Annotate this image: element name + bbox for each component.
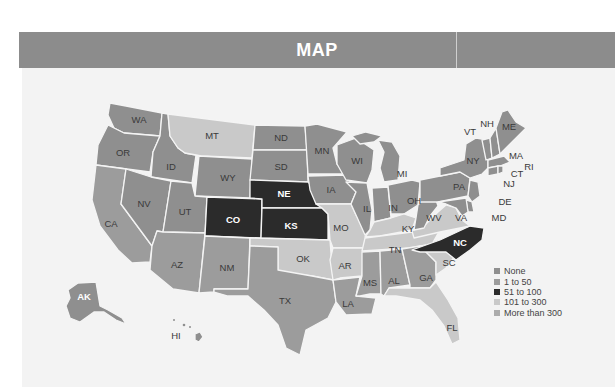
state-hi[interactable]: [195, 332, 203, 342]
state-nj[interactable]: [468, 180, 480, 202]
label-sc: SC: [442, 257, 455, 268]
legend-item-1-to-50: 1 to 50: [494, 276, 562, 286]
legend-item-none: None: [494, 266, 562, 276]
label-wa: WA: [132, 114, 148, 125]
label-or: OR: [116, 147, 130, 158]
label-al: AL: [388, 275, 400, 286]
label-la: LA: [342, 298, 354, 309]
label-nc: NC: [453, 237, 467, 248]
legend-label: 51 to 100: [504, 287, 542, 297]
label-sd: SD: [274, 161, 287, 172]
state-ct[interactable]: [488, 166, 498, 176]
label-ny: NY: [466, 155, 480, 166]
state-ri[interactable]: [498, 166, 503, 174]
label-mt: MT: [205, 130, 219, 141]
legend-item-101-to-300: 101 to 300: [494, 297, 562, 307]
label-wv: WV: [426, 212, 442, 223]
label-va: VA: [455, 212, 468, 223]
label-mo: MO: [333, 222, 348, 233]
label-vt: VT: [464, 126, 476, 137]
label-co: CO: [226, 214, 240, 225]
state-hi-island: [183, 324, 186, 327]
label-ak: AK: [77, 291, 91, 302]
label-ok: OK: [296, 253, 310, 264]
legend-label: 1 to 50: [504, 277, 532, 287]
label-hi: HI: [171, 330, 181, 341]
label-in: IN: [388, 202, 398, 213]
label-tn: TN: [389, 244, 402, 255]
label-wy: WY: [220, 172, 236, 183]
label-ks: KS: [284, 220, 297, 231]
label-ca: CA: [104, 218, 118, 229]
legend-swatch-icon: [494, 279, 500, 285]
label-ut: UT: [179, 206, 192, 217]
label-ma: MA: [509, 150, 524, 161]
label-de: DE: [498, 196, 511, 207]
label-az: AZ: [171, 259, 183, 270]
legend-swatch-icon: [494, 289, 500, 295]
label-nv: NV: [137, 198, 151, 209]
label-mn: MN: [315, 145, 330, 156]
label-md: MD: [492, 212, 507, 223]
state-hi-island: [173, 319, 175, 321]
state-hi-island: [189, 326, 191, 328]
legend-label: 101 to 300: [504, 297, 547, 307]
label-pa: PA: [453, 181, 466, 192]
label-nd: ND: [274, 132, 288, 143]
label-ga: GA: [419, 272, 433, 283]
us-choropleth-map: WA OR CA ID NV MT WY UT AZ CO NM ND SD N…: [0, 0, 615, 387]
label-id: ID: [166, 161, 176, 172]
label-ne: NE: [277, 188, 290, 199]
label-oh: OH: [407, 195, 421, 206]
label-wi: WI: [351, 155, 363, 166]
legend-swatch-icon: [494, 268, 500, 274]
label-nh: NH: [480, 118, 494, 129]
label-ri: RI: [524, 161, 534, 172]
label-ia: IA: [327, 184, 337, 195]
map-legend: None 1 to 50 51 to 100 101 to 300 More t…: [494, 266, 562, 318]
label-nj: NJ: [503, 178, 515, 189]
state-fl[interactable]: [384, 282, 460, 344]
label-ms: MS: [363, 277, 377, 288]
label-ar: AR: [338, 260, 351, 271]
legend-swatch-icon: [494, 310, 500, 316]
label-fl: FL: [446, 322, 457, 333]
label-tx: TX: [279, 295, 292, 306]
label-mi: MI: [397, 168, 408, 179]
legend-item-51-to-100: 51 to 100: [494, 287, 562, 297]
legend-label: None: [504, 266, 526, 276]
legend-item-more-than-300: More than 300: [494, 308, 562, 318]
state-ak[interactable]: [66, 282, 126, 324]
legend-swatch-icon: [494, 299, 500, 305]
label-ky: KY: [402, 223, 415, 234]
state-me[interactable]: [496, 110, 526, 154]
legend-label: More than 300: [504, 308, 562, 318]
label-me: ME: [502, 121, 516, 132]
label-nm: NM: [220, 262, 235, 273]
label-il: IL: [363, 203, 371, 214]
state-ny[interactable]: [440, 138, 488, 178]
